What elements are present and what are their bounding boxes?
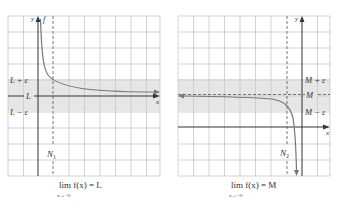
x-axis-label-right: x (325, 129, 330, 137)
caption-right: lim f(x) = M (231, 180, 276, 190)
band-lower-label-right: M − ε (304, 107, 326, 117)
band-lower-label-left: L − ε (9, 107, 29, 117)
band-upper-label-left: L + ε (9, 75, 29, 85)
y-axis-arrow-right (300, 16, 305, 22)
caption-left: lim f(x) = L (59, 180, 102, 190)
center-label-M: M (305, 90, 314, 100)
left-panel: y f x L + ε L L − ε N1 lim f(x) = L x→+∞ (8, 15, 160, 198)
caption-sub-right: x→−∞ (229, 193, 243, 198)
band-upper-label-right: M + ε (304, 75, 326, 85)
limits-diagram: y f x L + ε L L − ε N1 lim f(x) = L x→+∞ (0, 0, 344, 208)
curve-arrow-down (294, 170, 299, 176)
caption-sub-left: x→+∞ (57, 193, 71, 198)
right-panel: y x M + ε M M − ε N2 lim f(x) = M x→−∞ (178, 15, 330, 198)
center-label-L: L (25, 91, 31, 101)
y-axis-arrow-left (36, 16, 41, 22)
